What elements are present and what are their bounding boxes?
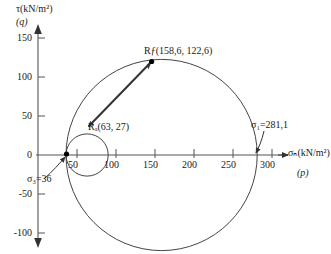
y-axis-arrow-bottom [34, 238, 42, 248]
y-tick-label-150: 150 [6, 33, 32, 43]
x-tick-label-100: 100 [104, 160, 119, 170]
x-tick-label-200: 200 [182, 160, 197, 170]
y-axis-ticks [38, 38, 45, 233]
sigma3-label: σ₃=36 [27, 174, 52, 184]
x-tick-label-50: 50 [68, 160, 78, 170]
sigma1-label: σ₁=281,1 [251, 120, 288, 130]
stress-path-arrow [89, 62, 152, 127]
sigma1-leader-line [256, 131, 264, 153]
point-label-rf: Rƒ(158,6, 122,6) [144, 46, 212, 56]
x-axis-title-alt: (p) [297, 168, 309, 178]
x-tick-label-300: 300 [260, 160, 275, 170]
y-axis-title: τ(kN/m²) [16, 4, 52, 14]
y-axis-title-alt: (q) [16, 17, 28, 27]
x-tick-label-150: 150 [143, 160, 158, 170]
y-tick-label-neg50: -50 [2, 189, 32, 199]
point-label-ra: Rₐ(63, 27) [88, 122, 129, 132]
y-tick-label-0: 0 [6, 150, 32, 160]
x-axis-ticks [77, 149, 272, 158]
y-axis-arrow-top [34, 24, 42, 34]
y-tick-label-50: 50 [6, 111, 32, 121]
x-tick-label-250: 250 [221, 160, 236, 170]
point-marker-rf [149, 59, 154, 64]
y-tick-label-neg100: -100 [2, 228, 32, 238]
point-marker-sigma3 [64, 151, 69, 156]
y-tick-label-100: 100 [6, 72, 32, 82]
mohr-circle-figure: τ(kN/m²) (q) σₙ(kN/m²) (p) 150 100 50 0 … [0, 0, 331, 254]
x-axis-title: σₙ(kN/m²) [288, 148, 330, 158]
